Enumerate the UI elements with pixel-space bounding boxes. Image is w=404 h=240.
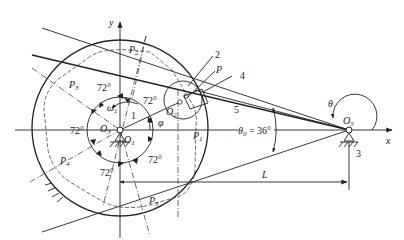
link-1-label: 1 [131, 110, 136, 121]
joint-o2: O2 [166, 106, 177, 119]
o2-pin [178, 100, 182, 104]
x-axis-label: x [385, 135, 391, 146]
dimension-l-label: L [261, 169, 268, 180]
point-p3: P3 [68, 79, 79, 92]
point-p1: P1 [192, 130, 203, 143]
angle-72-bottom-right: 72° [148, 154, 162, 165]
angle-72-bottom: 72° [100, 167, 114, 178]
y-axis-label: y [108, 17, 114, 28]
mechanism-diagram: y x P2 P3 P4 P5 P1 P 2 4 5 3 1 O2 O3 O1 … [0, 0, 404, 240]
joint-o3: O3 [100, 123, 111, 136]
phi-label: φ [158, 117, 164, 128]
link-5-label: 5 [234, 104, 239, 115]
joint-o5: O5 [343, 115, 354, 128]
angle-72-left: 72° [70, 125, 84, 136]
o5-support [344, 133, 354, 141]
joint-o1: O1 [124, 134, 135, 147]
angle-72-top-left: 72° [97, 82, 111, 93]
theta-arc [333, 94, 377, 130]
point-p5: P5 [148, 195, 159, 208]
caption-clipped [60, 229, 360, 239]
angle-72-top-right: 72° [143, 95, 157, 106]
link-2-label: 2 [215, 49, 220, 60]
point-p: P [215, 64, 222, 75]
omega-label: ω1 [107, 102, 118, 115]
link-4-label: 4 [240, 70, 245, 81]
point-p2: P2 [128, 44, 139, 57]
point-p4: P4 [59, 155, 70, 168]
leader-lines [188, 56, 232, 97]
link-3-label: 3 [356, 148, 361, 159]
o5-hatch [339, 142, 358, 147]
theta-label: θ [328, 98, 333, 109]
o1-joint [117, 127, 123, 133]
